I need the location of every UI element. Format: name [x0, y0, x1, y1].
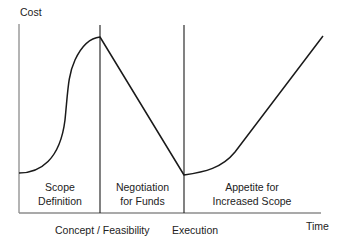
phase-label-line: Increased Scope — [190, 195, 314, 209]
cost-time-diagram — [0, 0, 349, 246]
phase-appetite-increased-scope: Appetite for Increased Scope — [190, 181, 314, 208]
cost-curve — [19, 36, 323, 175]
phase-label-line: Scope — [20, 181, 100, 195]
phase-label-line: Negotiation — [101, 181, 184, 195]
milestone-execution: Execution — [172, 224, 218, 237]
phase-scope-definition: Scope Definition — [20, 181, 100, 208]
phase-label-line: Definition — [20, 195, 100, 209]
milestone-concept-feasibility: Concept / Feasibility — [55, 224, 150, 237]
y-axis-label: Cost — [20, 6, 42, 19]
phase-label-line: Appetite for — [190, 181, 314, 195]
phase-label-line: for Funds — [101, 195, 184, 209]
phase-negotiation-for-funds: Negotiation for Funds — [101, 181, 184, 208]
x-axis-label: Time — [306, 220, 329, 233]
